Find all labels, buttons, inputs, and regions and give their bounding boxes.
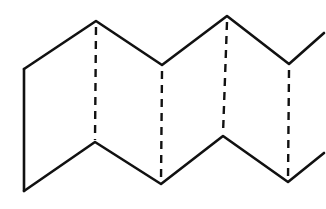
bottom-edge-line: [24, 136, 324, 191]
diagram-canvas: Accordion-folded (zigzag) paper strip li…: [0, 0, 326, 209]
top-edge-line: [24, 16, 324, 69]
accordion-fold-diagram: [0, 0, 326, 209]
fold-1-dashed-line: [95, 27, 96, 140]
fold-lines: [95, 22, 289, 182]
fold-2-dashed-line: [161, 71, 162, 182]
fold-3-dashed-line: [223, 22, 227, 134]
fold-4-dashed-line: [288, 70, 289, 180]
